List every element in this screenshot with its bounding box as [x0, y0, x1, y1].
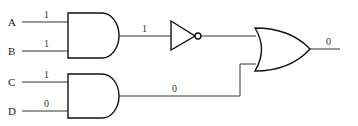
- value-d: 0: [44, 98, 49, 109]
- value-and2-out: 0: [172, 83, 177, 94]
- wire-and2-out: [119, 64, 256, 96]
- input-label-b: B: [8, 45, 15, 57]
- and-gate-1: [68, 13, 119, 58]
- not-gate: [171, 21, 195, 50]
- input-label-d: D: [8, 105, 16, 117]
- value-a: 1: [44, 9, 49, 20]
- logic-circuit: A B C D 1 1 1 0 1 0 0: [0, 0, 358, 126]
- value-final-out: 0: [326, 36, 331, 47]
- value-and1-out: 1: [142, 23, 147, 34]
- or-gate: [255, 28, 310, 71]
- input-label-c: C: [8, 76, 15, 88]
- and-gate-2: [68, 74, 119, 118]
- value-b: 1: [44, 38, 49, 49]
- not-bubble: [195, 33, 201, 39]
- input-label-a: A: [8, 16, 16, 28]
- value-c: 1: [44, 69, 49, 80]
